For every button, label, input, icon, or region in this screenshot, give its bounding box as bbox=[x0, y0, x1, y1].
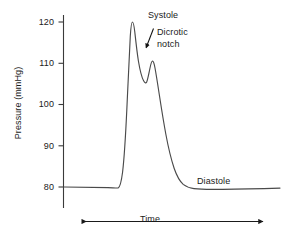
annotation-diastole: Diastole bbox=[197, 176, 230, 187]
y-tick-label-80: 80 bbox=[18, 182, 54, 192]
dicrotic-notch-arrow bbox=[146, 29, 153, 48]
y-tick-label-110: 110 bbox=[18, 58, 54, 68]
annotation-dicrotic-notch-line1: Dicrotic bbox=[157, 27, 188, 38]
blood-pressure-waveform-figure: Pressure (mmHg) 120 110 100 90 80 Systol… bbox=[0, 0, 289, 243]
y-tick-label-120: 120 bbox=[18, 17, 54, 27]
annotation-dicrotic-notch-line2: notch bbox=[157, 39, 180, 50]
chart-canvas bbox=[0, 0, 289, 243]
annotation-systole: Systole bbox=[148, 10, 178, 21]
y-axis-ticks bbox=[59, 22, 64, 187]
x-axis-title: Time bbox=[140, 214, 160, 224]
y-tick-label-100: 100 bbox=[18, 99, 54, 109]
y-tick-label-90: 90 bbox=[18, 141, 54, 151]
